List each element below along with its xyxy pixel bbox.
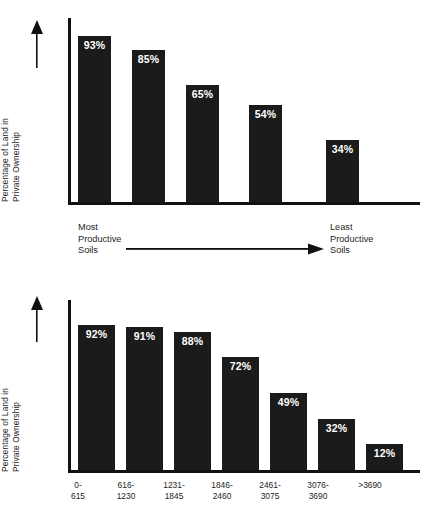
x-tick-label-1-line-1: 0-	[56, 480, 100, 491]
most-productive-line-1: Most	[78, 222, 121, 234]
chart-figure-bottom: Percentage of Land in Private Ownership …	[0, 282, 424, 522]
plot-area-top: 93% 85% 65% 54% 34%	[68, 18, 420, 205]
bar-bottom-2: 91%	[126, 327, 163, 470]
bar-value-top-1: 93%	[78, 39, 111, 51]
bar-value-bottom-6: 32%	[318, 422, 355, 434]
bar-bottom-4: 72%	[222, 357, 259, 470]
up-arrow-icon	[30, 296, 44, 342]
y-axis-label-line-1: Percentage of Land in	[0, 412, 11, 472]
bar-value-bottom-3: 88%	[174, 335, 211, 347]
x-tick-label-5: 2461- 3075	[248, 480, 292, 501]
x-tick-label-2-line-1: 616-	[104, 480, 148, 491]
plot-area-bottom: 92% 91% 88% 72% 49% 32% 12%	[68, 300, 420, 473]
least-productive-line-2: Productive	[330, 234, 373, 246]
x-axis-line-bottom	[68, 470, 420, 473]
x-tick-label-6-line-2: 3690	[296, 491, 340, 502]
bar-top-3: 65%	[186, 85, 219, 202]
bar-value-bottom-5: 49%	[270, 396, 307, 408]
bar-bottom-6: 32%	[318, 419, 355, 470]
x-tick-label-1: 0- 615	[56, 480, 100, 501]
bar-value-bottom-4: 72%	[222, 360, 259, 372]
bar-value-top-2: 85%	[132, 53, 165, 65]
bar-value-bottom-2: 91%	[126, 330, 163, 342]
bar-bottom-1: 92%	[78, 325, 115, 470]
x-tick-label-5-line-2: 3075	[248, 491, 292, 502]
y-axis-line-bottom	[68, 300, 71, 473]
x-tick-label-2: 616- 1230	[104, 480, 148, 501]
x-tick-label-4-line-1: 1846-	[200, 480, 244, 491]
x-tick-label-7: >3690	[344, 480, 396, 491]
x-tick-label-1-line-2: 615	[56, 491, 100, 502]
most-productive-line-2: Productive	[78, 234, 121, 246]
x-axis-line-top	[68, 202, 420, 205]
y-axis-label-line-2: Private Ownership	[11, 142, 22, 202]
chart-figure-top: Percentage of Land in Private Ownership …	[0, 0, 424, 282]
most-productive-line-3: Soils	[78, 245, 121, 257]
x-tick-label-5-line-1: 2461-	[248, 480, 292, 491]
x-tick-label-3-line-1: 1231-	[152, 480, 196, 491]
y-axis-label-bottom: Percentage of Land in Private Ownership	[0, 412, 21, 472]
bar-top-2: 85%	[132, 50, 165, 202]
bar-bottom-5: 49%	[270, 393, 307, 470]
y-axis-caption-bottom: Percentage of Land in Private Ownership	[0, 294, 62, 472]
bar-value-top-4: 54%	[249, 108, 282, 120]
x-tick-label-4: 1846- 2460	[200, 480, 244, 501]
x-tick-label-7-line-1: >3690	[344, 480, 396, 491]
least-productive-line-3: Soils	[330, 245, 373, 257]
up-arrow-icon	[30, 20, 44, 68]
y-axis-caption-top: Percentage of Land in Private Ownership	[0, 18, 62, 203]
bar-top-1: 93%	[78, 36, 111, 202]
bar-bottom-7: 12%	[366, 444, 403, 470]
least-productive-soils-caption: Least Productive Soils	[330, 222, 373, 257]
bar-value-bottom-7: 12%	[366, 447, 403, 459]
x-tick-label-4-line-2: 2460	[200, 491, 244, 502]
bar-top-5: 34%	[326, 140, 359, 202]
x-tick-label-6: 3076- 3690	[296, 480, 340, 501]
y-axis-line-top	[68, 18, 71, 205]
x-tick-label-6-line-1: 3076-	[296, 480, 340, 491]
y-axis-label-top: Percentage of Land in Private Ownership	[0, 142, 21, 202]
x-tick-label-3: 1231- 1845	[152, 480, 196, 501]
bar-value-bottom-1: 92%	[78, 328, 115, 340]
y-axis-label-line-1: Percentage of Land in	[0, 142, 11, 202]
most-productive-soils-caption: Most Productive Soils	[78, 222, 121, 257]
right-arrow-icon	[126, 243, 324, 255]
y-axis-label-line-2: Private Ownership	[11, 412, 22, 472]
bar-top-4: 54%	[249, 105, 282, 202]
bar-value-top-5: 34%	[326, 143, 359, 155]
x-tick-label-2-line-2: 1230	[104, 491, 148, 502]
x-tick-label-3-line-2: 1845	[152, 491, 196, 502]
bar-value-top-3: 65%	[186, 88, 219, 100]
least-productive-line-1: Least	[330, 222, 373, 234]
bar-bottom-3: 88%	[174, 332, 211, 470]
